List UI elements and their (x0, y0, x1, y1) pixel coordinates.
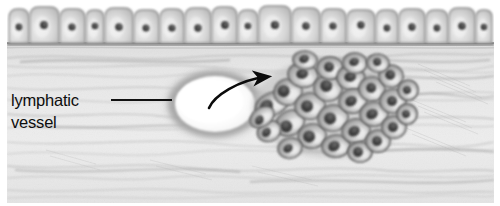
epithelial-cell (399, 9, 425, 43)
label-vessel: vessel (11, 113, 57, 131)
epithelial-cell-nucleus (168, 24, 175, 31)
tumor-cell (397, 104, 417, 124)
epithelial-cell-nucleus (245, 23, 252, 30)
epithelial-cell (321, 9, 346, 43)
epithelial-cell (86, 10, 104, 43)
epithelial-cell-nucleus (458, 22, 466, 30)
epithelial-cell-highlight (351, 18, 367, 38)
epithelial-cell-nucleus (194, 24, 201, 31)
epithelial-cell-nucleus (40, 21, 48, 29)
histology-figure: lymphatic vessel (0, 0, 500, 206)
epithelial-cell-nucleus (16, 24, 23, 31)
epithelial-cell-nucleus (92, 23, 99, 30)
epithelial-cell (9, 9, 29, 43)
epithelial-cell-nucleus (271, 21, 279, 29)
figure-canvas: lymphatic vessel (0, 0, 500, 206)
epithelial-cell (238, 10, 258, 43)
epithelial-cell (347, 10, 375, 43)
epithelial-cell-nucleus (357, 21, 364, 28)
epithelial-cell-nucleus (115, 23, 123, 31)
epithelial-cell (160, 9, 184, 43)
epithelial-cell (476, 10, 492, 43)
tumor-cell (398, 80, 418, 100)
epithelial-cell (292, 8, 320, 43)
label-lymphatic: lymphatic (11, 91, 79, 109)
epithelial-cell (30, 7, 59, 43)
epithelial-cell (105, 8, 133, 43)
epithelial-cell-nucleus (408, 23, 415, 30)
illustration-body: lymphatic vessel (7, 6, 494, 203)
epithelial-cell (426, 10, 448, 43)
epithelial-cell-nucleus (384, 25, 391, 32)
epithelial-cell (259, 6, 291, 43)
epithelial-cell (185, 8, 211, 43)
epithelial-cell-nucleus (481, 24, 487, 30)
epithelial-cell-nucleus (302, 22, 310, 30)
tumor-cell (292, 50, 317, 70)
surface-epithelium (9, 6, 492, 43)
epithelial-cell-nucleus (434, 25, 441, 32)
epithelial-cell-nucleus (329, 22, 336, 29)
epithelial-cell-nucleus (68, 23, 75, 30)
epithelial-cell (60, 9, 85, 43)
epithelial-cell (212, 7, 237, 43)
epithelial-cell-nucleus (221, 21, 229, 29)
epithelial-cell-nucleus (143, 25, 150, 32)
epithelial-cell (134, 10, 159, 43)
epithelial-cell (376, 10, 398, 43)
epithelial-cell (449, 8, 475, 43)
